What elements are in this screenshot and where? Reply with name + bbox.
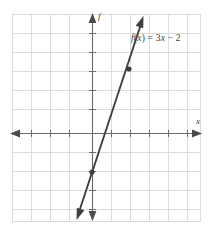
point-on-line (126, 66, 131, 71)
x-axis-label: x (196, 116, 200, 126)
function-label-equals: = 3 (145, 33, 161, 43)
coordinate-plane-svg (0, 0, 214, 228)
y-axis-arrow-down (89, 211, 97, 221)
function-equation-label: f(x) = 3x − 2 (131, 33, 181, 43)
function-line (77, 16, 144, 220)
x-axis-arrow-left (10, 130, 20, 138)
function-line-arrow-up (136, 16, 144, 28)
point-y-intercept (89, 169, 94, 174)
y-axis-label: f (98, 11, 101, 21)
graph-figure: f(x) = 3x − 2 x f (0, 0, 214, 228)
grid-lines-horizontal (12, 15, 200, 222)
y-axis (89, 13, 97, 221)
function-label-rest: − 2 (165, 33, 181, 43)
